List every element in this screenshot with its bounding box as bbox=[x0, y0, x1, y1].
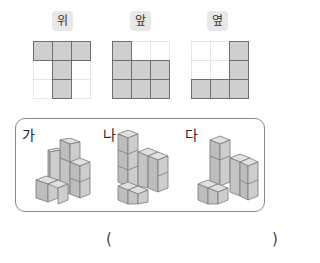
view-cell bbox=[151, 80, 170, 99]
view-cell bbox=[230, 42, 249, 61]
view-cell bbox=[151, 61, 170, 80]
view-cell bbox=[34, 42, 53, 61]
answer-blank[interactable] bbox=[120, 230, 270, 248]
side-view-grid bbox=[191, 41, 249, 101]
front-view-grid bbox=[112, 41, 170, 101]
answer-open-paren: ( bbox=[106, 230, 112, 248]
view-cell bbox=[230, 61, 249, 80]
view-cell bbox=[230, 80, 249, 99]
answer-close-paren: ) bbox=[272, 230, 278, 248]
view-cell bbox=[211, 80, 230, 99]
view-cell bbox=[53, 61, 72, 80]
top-view-grid bbox=[33, 41, 91, 101]
block-figure-da[interactable] bbox=[194, 134, 260, 206]
view-label-front: 앞 bbox=[130, 11, 151, 31]
view-cell bbox=[192, 80, 211, 99]
view-cell bbox=[53, 80, 72, 99]
block-figure-na[interactable] bbox=[112, 128, 172, 206]
view-cell bbox=[72, 42, 91, 61]
view-cell bbox=[113, 42, 132, 61]
view-label-side: 옆 bbox=[207, 11, 228, 31]
view-cell bbox=[53, 42, 72, 61]
view-cell bbox=[132, 61, 151, 80]
view-cell bbox=[113, 61, 132, 80]
view-cell bbox=[113, 80, 132, 99]
block-figure-ga[interactable] bbox=[30, 138, 100, 206]
view-cell bbox=[132, 80, 151, 99]
view-label-top: 위 bbox=[52, 11, 73, 31]
